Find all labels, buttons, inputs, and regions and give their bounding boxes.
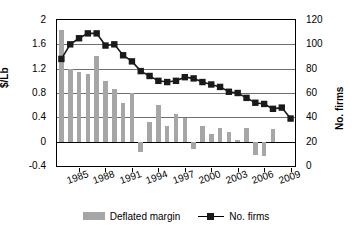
- legend-label-deflated-margin: Deflated margin: [110, 211, 181, 222]
- line-marker: [208, 81, 214, 87]
- left-axis-tick-label: -0.4: [29, 161, 46, 171]
- line-marker: [270, 106, 276, 112]
- left-axis-tick-label: 2: [40, 15, 46, 25]
- right-axis-tick-label: 80: [306, 64, 317, 74]
- line-marker: [111, 41, 117, 47]
- line-marker: [67, 41, 73, 47]
- line-marker: [58, 56, 64, 62]
- left-axis-group: $/Lb 21.61.20.80.40-0.4: [0, 0, 52, 236]
- line-marker: [93, 30, 99, 36]
- left-axis-title: $/Lb: [0, 67, 10, 88]
- line-marker: [102, 42, 108, 48]
- plot-area: [56, 19, 296, 167]
- line-square-icon: [198, 212, 224, 221]
- legend-item-no-firms: No. firms: [198, 211, 269, 222]
- right-axis-tick-label: 100: [306, 39, 323, 49]
- line-marker: [199, 79, 205, 85]
- x-axis-tick-label: 2006: [251, 169, 275, 186]
- bar-swatch-icon: [83, 212, 105, 220]
- left-axis-tick-label: 0.8: [32, 88, 46, 98]
- x-axis-tick-label: 1988: [92, 169, 116, 186]
- line-marker: [138, 68, 144, 74]
- line-marker: [146, 73, 152, 79]
- line-marker: [182, 74, 188, 80]
- right-axis-tick-label: 40: [306, 112, 317, 122]
- right-axis-tick-label: 20: [306, 137, 317, 147]
- line-marker: [85, 30, 91, 36]
- left-axis-tick-label: 0.4: [32, 112, 46, 122]
- line-marker: [287, 115, 293, 121]
- line-series-no-firms: [57, 20, 295, 166]
- line-marker: [76, 35, 82, 41]
- x-axis-tick-label: 1997: [171, 169, 195, 186]
- line-marker: [217, 84, 223, 90]
- right-axis-tick-label: 120: [306, 15, 323, 25]
- x-axis-tick-label: 1994: [145, 169, 169, 186]
- right-axis-title: No. firms: [334, 87, 345, 130]
- right-axis-tick-label: 0: [306, 161, 312, 171]
- line-marker: [120, 52, 126, 58]
- left-axis-tick-label: 0: [40, 137, 46, 147]
- line-marker: [252, 100, 258, 106]
- line-marker: [226, 89, 232, 95]
- line-marker: [261, 101, 267, 107]
- right-axis-tick-label: 60: [306, 88, 317, 98]
- left-axis-tick-label: 1.6: [32, 39, 46, 49]
- legend-label-no-firms: No. firms: [229, 211, 269, 222]
- right-axis-group: 120100806040200: [298, 0, 332, 236]
- chart-container: $/Lb 21.61.20.80.40-0.4 120100806040200 …: [0, 0, 356, 236]
- chart-legend: Deflated margin No. firms: [56, 206, 296, 226]
- legend-item-deflated-margin: Deflated margin: [83, 211, 181, 222]
- line-marker: [129, 58, 135, 64]
- line-marker: [243, 95, 249, 101]
- line-marker: [155, 78, 161, 84]
- line-marker: [190, 75, 196, 81]
- line-marker: [173, 78, 179, 84]
- line-marker: [279, 104, 285, 110]
- x-axis-tick-label: 2003: [224, 169, 248, 186]
- x-axis-tick-label: 2000: [198, 169, 222, 186]
- left-axis-tick-label: 1.2: [32, 64, 46, 74]
- x-axis-tick-label: 1985: [66, 169, 90, 186]
- line-marker: [235, 90, 241, 96]
- x-axis-tick-label: 1991: [119, 169, 143, 186]
- line-marker: [164, 79, 170, 85]
